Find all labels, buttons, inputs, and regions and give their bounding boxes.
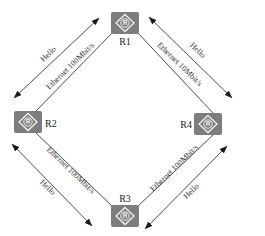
router-r2[interactable]: R R2 [14,111,57,133]
router-label-r4: R4 [180,119,192,130]
link-r2-r1: Hello Ethernet 100Mbit/s [14,18,113,111]
svg-text:R: R [123,212,128,219]
ethernet-line-r1-r4 [137,32,213,113]
router-r1[interactable]: R R1 [111,12,139,47]
link-r3-r4: Ethernet 100Mbit/s Hello [137,135,227,229]
router-label-r3: R3 [119,193,131,204]
ethernet-line-r2-r1 [36,32,113,111]
link-r1-r4: Hello Ethernet 10Mbit/s [137,17,232,113]
hello-label-r1-r4: Hello [188,41,207,60]
router-label-r1: R1 [119,36,131,47]
hello-arrow-r2-r1 [14,18,99,98]
svg-text:R: R [123,19,128,26]
svg-text:R: R [206,120,211,127]
hello-label-r2-r1: Hello [39,45,58,64]
hello-label-r2-r3: Hello [38,178,57,197]
router-label-r2: R2 [45,118,57,129]
link-r2-r3: Ethernet 100Mbit/s Hello [12,133,113,226]
hello-label-r3-r4: Hello [182,182,201,201]
network-diagram: Hello Ethernet 100Mbit/s Hello Ethernet … [0,0,265,236]
router-r3[interactable]: R R3 [111,193,139,227]
router-r4[interactable]: R R4 [180,113,222,135]
svg-text:R: R [26,118,31,125]
